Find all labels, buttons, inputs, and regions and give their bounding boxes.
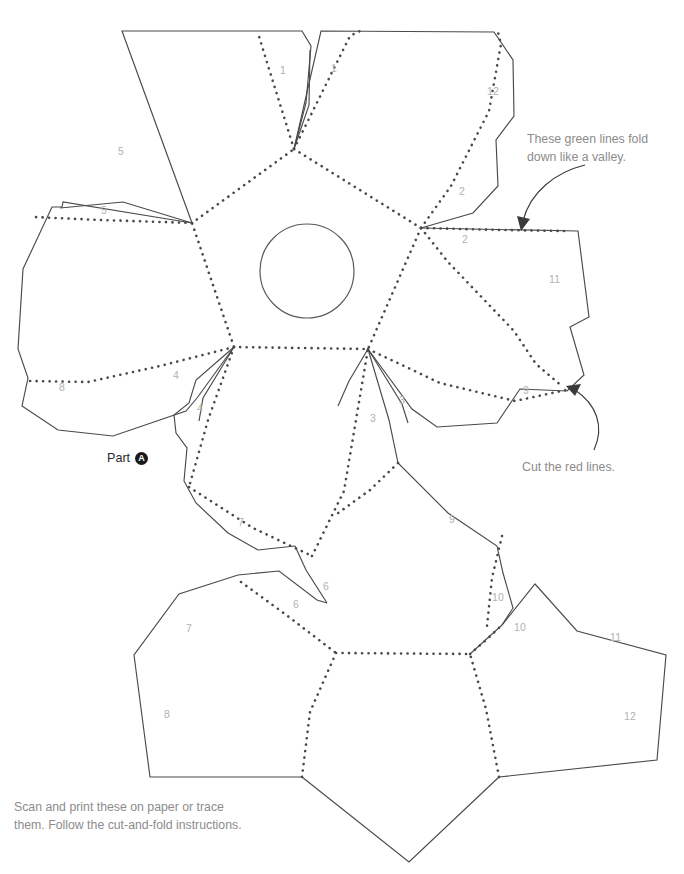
tab-number: 8: [164, 708, 170, 720]
tab-number: 9: [523, 384, 529, 396]
tab-number: 9: [449, 513, 455, 525]
tab-number: 1: [331, 62, 337, 74]
tab-number: 11: [549, 273, 560, 285]
annotation-valley-fold: These green lines fold down like a valle…: [527, 131, 679, 166]
sheet-caption: Scan and print these on paper or trace t…: [14, 798, 344, 834]
tab-number: 5: [101, 204, 107, 216]
center-hole-circle: [260, 224, 354, 318]
tab-number: 3: [399, 394, 405, 406]
tab-number: 11: [610, 631, 621, 643]
annotation-cut-lines: Cut the red lines.: [522, 459, 682, 477]
pentagon-lower-right: [470, 584, 666, 777]
part-label-text: Part: [107, 451, 130, 465]
part-badge: A: [135, 452, 148, 465]
tab-number: 6: [293, 598, 299, 610]
tab-number: 5: [118, 145, 124, 157]
tab-number: 4: [173, 369, 179, 381]
papercraft-sheet: 111255221184433979661010711812 These gre…: [0, 0, 684, 874]
leader-arrow-cut: [566, 384, 599, 450]
tab-number: 3: [370, 412, 376, 424]
tab-number: 8: [59, 381, 65, 393]
tab-number: 12: [624, 710, 636, 722]
leader-arrow-valley: [517, 165, 585, 231]
tab-number: 6: [323, 580, 329, 592]
pentagon-top-right: [294, 31, 514, 228]
pentagon-left: [18, 202, 234, 436]
tab-number: 7: [186, 622, 192, 634]
central-pentagon: [192, 149, 421, 349]
tab-number: 1: [280, 64, 286, 76]
pentagon-bottom-center-upper: [174, 347, 368, 603]
part-label: Part A: [107, 451, 148, 465]
pentagon-top-left: [60, 31, 311, 223]
tab-number: 10: [514, 621, 526, 633]
tab-number: 4: [197, 402, 203, 414]
tab-number: 12: [487, 85, 499, 97]
tab-number: 7: [238, 516, 244, 528]
pentagon-lower-left: [134, 571, 336, 777]
tab-number: 10: [492, 591, 504, 603]
tab-number: 2: [462, 233, 468, 245]
tab-number: 2: [459, 185, 465, 197]
